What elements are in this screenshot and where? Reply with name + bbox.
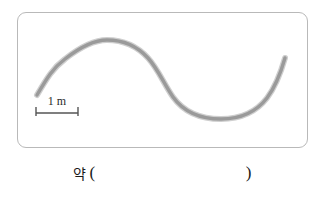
figure-drawing: 1 m xyxy=(17,12,308,148)
scale-bar xyxy=(36,107,78,116)
answer-close-paren: ) xyxy=(246,163,252,183)
wavy-curve xyxy=(37,40,285,119)
answer-line: 약 ( ) xyxy=(17,158,308,188)
answer-prefix-label: 약 xyxy=(73,163,87,183)
figure-root: 1 m 약 ( ) xyxy=(0,0,325,200)
answer-open-paren: ( xyxy=(90,163,96,183)
scale-bar-label: 1 m xyxy=(48,94,67,108)
